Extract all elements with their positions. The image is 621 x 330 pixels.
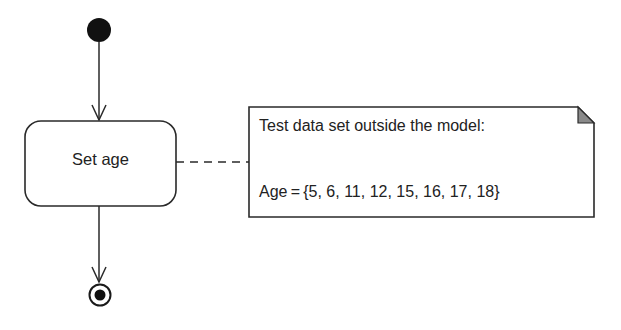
note-data-set: Age = {5, 6, 11, 12, 15, 16, 17, 18} (259, 183, 500, 201)
edge-initial-to-action (92, 42, 106, 120)
final-node (90, 285, 111, 306)
initial-node (87, 18, 111, 42)
note-fold-corner (578, 107, 594, 123)
note-title: Test data set outside the model: (259, 117, 485, 135)
action-label: Set age (25, 150, 176, 169)
edge-action-to-final (92, 206, 106, 282)
